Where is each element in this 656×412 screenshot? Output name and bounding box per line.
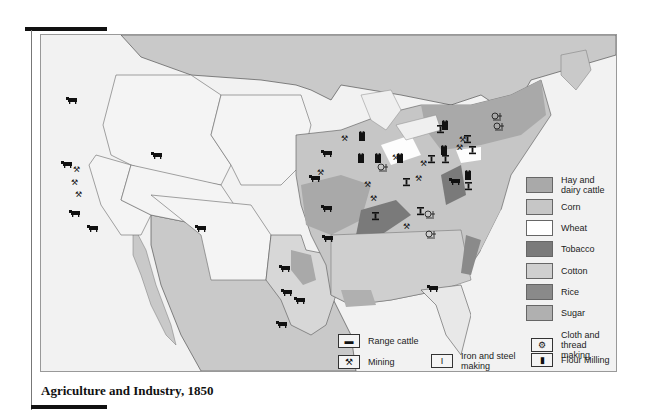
top-decorative-rule xyxy=(25,27,107,31)
legend-sugar: Sugar xyxy=(526,301,585,325)
legend-tobacco: Tobacco xyxy=(526,237,595,261)
legend-hay-dairy: Hay and dairy cattle xyxy=(526,173,606,197)
i-beam-icon: I xyxy=(431,354,453,368)
corn-swatch xyxy=(526,199,553,215)
rice-swatch xyxy=(526,284,553,300)
flour-sack-icon: ▮ xyxy=(531,353,553,367)
hay-dairy-swatch xyxy=(526,177,553,193)
cattle-icon: ▬ xyxy=(338,334,360,348)
sugar-swatch xyxy=(526,305,553,321)
crossed-hammers-icon: ⚒ xyxy=(338,355,360,369)
tobacco-swatch xyxy=(526,241,553,257)
map-caption: Agriculture and Industry, 1850 xyxy=(41,383,213,399)
cotton-swatch xyxy=(526,263,553,279)
legend-iron-steel: I Iron and steel making xyxy=(431,351,521,371)
left-decorative-rule xyxy=(31,30,32,410)
spinning-wheel-icon: ⚙ xyxy=(531,338,553,352)
legend-mining: ⚒ Mining xyxy=(338,355,395,369)
legend-range-cattle: ▬ Range cattle xyxy=(338,334,419,348)
bottom-decorative-rule xyxy=(31,405,107,409)
wheat-swatch xyxy=(526,220,553,236)
legend-flour-milling: ▮ Flour Milling xyxy=(531,353,610,367)
